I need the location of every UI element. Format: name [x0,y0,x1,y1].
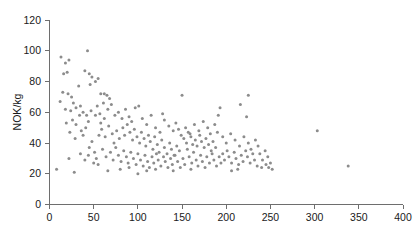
data-point [133,128,136,131]
data-point [166,166,169,169]
data-point [128,131,131,134]
data-point [151,148,154,151]
data-point [64,108,67,111]
data-point [97,163,100,166]
data-point [96,105,99,108]
data-point [184,126,187,129]
data-point [88,146,91,149]
data-point [223,158,226,161]
data-point [145,123,148,126]
data-point [100,128,103,131]
y-tick-label: 0 [35,198,41,210]
data-point [93,151,96,154]
data-point [174,122,177,125]
data-point [71,118,74,121]
data-point [127,161,130,164]
data-point [77,85,80,88]
data-point [73,171,76,174]
data-point [83,69,86,72]
data-point [219,106,222,109]
data-point [186,148,189,151]
data-point [111,132,114,135]
data-point [203,146,206,149]
data-point [193,123,196,126]
data-point [105,94,108,97]
x-tick-label: 300 [306,211,324,223]
x-axis-tick-labels: 050100150200250300350400 [47,211,412,223]
data-point [64,62,67,65]
data-point [169,157,172,160]
data-point [106,108,109,111]
data-point [138,142,141,145]
data-point [256,165,259,168]
data-point [201,160,204,163]
data-point [86,49,89,52]
data-point [113,114,116,117]
data-point [271,168,274,171]
data-point [88,72,91,75]
data-point [210,149,213,152]
data-point [170,148,173,151]
data-point [242,135,245,138]
data-point [124,108,127,111]
data-point [109,151,112,154]
data-point [92,161,95,164]
data-point [122,149,125,152]
data-point [221,152,224,155]
x-tick-label: 150 [173,211,191,223]
data-point [236,168,239,171]
data-point [145,169,148,172]
y-tick-label: 120 [23,14,41,26]
data-point [89,83,92,86]
data-point [136,152,139,155]
x-tick-label: 200 [217,211,235,223]
data-point [229,132,232,135]
data-point [261,158,264,161]
data-point [105,155,108,158]
data-point [180,134,183,137]
data-point [128,166,131,169]
data-point [211,152,214,155]
data-point [139,158,142,161]
data-point [79,152,82,155]
data-point [142,165,145,168]
scatter-plot-figure: 020406080100120 050100150200250300350400… [0,0,416,236]
data-point [69,109,72,112]
data-point [90,75,93,78]
data-point [166,152,169,155]
data-point [189,168,192,171]
data-point [267,166,270,169]
data-point [70,95,73,98]
data-point [249,161,252,164]
data-point [99,92,102,95]
data-point [183,163,186,166]
data-point [215,165,218,168]
data-point [196,165,199,168]
data-point [269,161,272,164]
data-point [97,77,100,80]
data-point [157,158,160,161]
data-point [196,145,199,148]
data-point [216,131,219,134]
data-point [207,143,210,146]
data-point [158,151,161,154]
data-point [94,114,97,117]
data-point [74,137,77,140]
data-point [65,122,68,125]
data-point [163,118,166,121]
data-point [104,135,107,138]
data-point [175,145,178,148]
data-point [103,92,106,95]
data-point [118,137,121,140]
data-point [213,123,216,126]
data-point [158,131,161,134]
data-point [80,129,83,132]
data-point [258,152,261,155]
data-point [134,106,137,109]
data-point [178,149,181,152]
data-point [75,106,78,109]
data-point [188,155,191,158]
data-point [244,149,247,152]
data-point [230,161,233,164]
data-point [217,114,220,117]
